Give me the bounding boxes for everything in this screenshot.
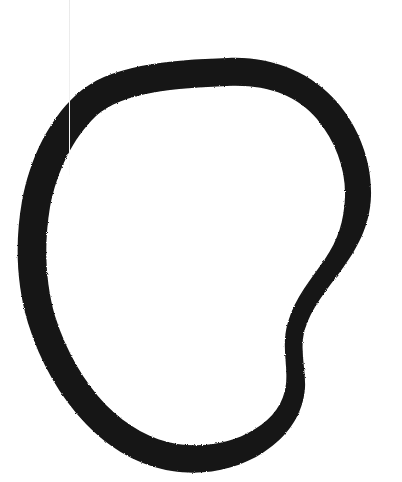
hand-drawn-loop-drawing: Thick black hand-drawn oval outline on w… bbox=[0, 0, 402, 482]
image-canvas: Thick black hand-drawn oval outline on w… bbox=[0, 0, 402, 482]
